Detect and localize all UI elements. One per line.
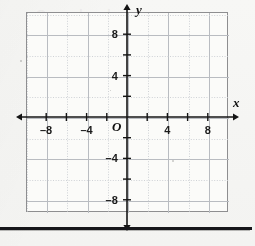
y-tick-label-4: 4	[112, 71, 118, 82]
x-tick-label--8: –8	[40, 125, 52, 136]
coordinate-plane-plot-area	[26, 12, 228, 212]
scanned-page: Sample ghost bleed text scan artifact fa…	[0, 0, 255, 246]
y-tick-label--4: –4	[106, 153, 118, 164]
scan-speck	[172, 160, 174, 162]
x-tick-label--4: –4	[80, 125, 92, 136]
y-axis-label: y	[136, 3, 142, 16]
scan-speck	[110, 90, 111, 91]
x-axis-label: x	[233, 96, 240, 109]
horizontal-rule	[0, 227, 252, 230]
x-tick-label-8: 8	[205, 125, 211, 136]
y-tick-label-8: 8	[112, 29, 118, 40]
x-tick-label-4: 4	[164, 125, 170, 136]
scan-speck	[20, 60, 22, 62]
y-tick-label--8: –8	[106, 195, 118, 206]
origin-label: O	[112, 120, 121, 133]
grid-lines	[27, 13, 229, 213]
